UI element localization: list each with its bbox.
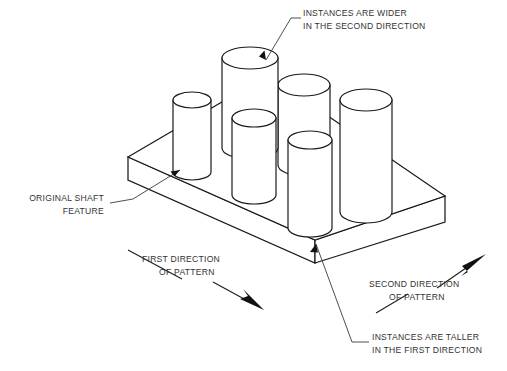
label-instances-taller-line1: INSTANCES ARE TALLER [372,332,479,342]
shaft-row2-col2-body [232,118,276,204]
label-original-shaft-line2: FEATURE [63,206,104,216]
technical-diagram: INSTANCES ARE WIDER IN THE SECOND DIRECT… [0,0,507,371]
label-instances-taller-line2: IN THE FIRST DIRECTION [372,345,482,355]
cad-drawing-canvas: INSTANCES ARE WIDER IN THE SECOND DIRECT… [0,0,507,371]
shaft-row2-col3-tall-top [288,131,332,149]
shaft-row2-col2-top [232,109,276,127]
label-instances-wider-line2: IN THE SECOND DIRECTION [303,21,426,31]
label-first-direction-line1: FIRST DIRECTION [142,254,220,264]
shaft-row1-col4-body [340,100,392,223]
first-direction-arrowhead [240,289,264,310]
shaft-original [173,92,211,180]
shaft-row1-col4-top [340,89,392,111]
shaft-row2-col2 [232,109,276,204]
second-direction-arrowhead [461,254,486,276]
shaft-original-body [173,100,211,180]
label-original-shaft-line1: ORIGINAL SHAFT [29,193,104,203]
shaft-original-top [173,92,211,108]
label-instances-wider-line1: INSTANCES ARE WIDER [303,8,407,18]
label-first-direction-line2: OF PATTERN [159,267,215,277]
shaft-row1-col3-top [278,74,330,96]
shaft-row2-col3-tall-body [288,140,332,237]
label-second-direction-line1: SECOND DIRECTION [369,279,459,289]
shaft-row1-col2-top [222,47,278,69]
shaft-row2-col3-tall [288,131,332,237]
first-direction-arrow-shaft [213,282,246,300]
shaft-row1-col4 [340,89,392,223]
label-second-direction-line2: OF PATTERN [389,292,445,302]
